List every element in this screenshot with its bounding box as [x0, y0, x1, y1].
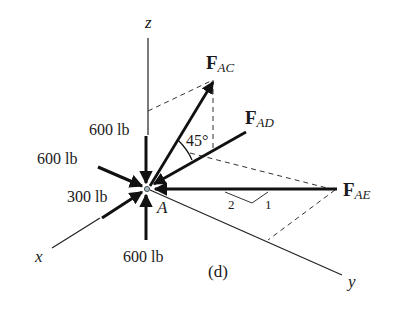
point-a	[144, 186, 149, 191]
angle-label: 45°	[186, 132, 208, 149]
x-axis-label: x	[34, 247, 43, 266]
slope-rise-label: 1	[265, 197, 272, 212]
construction-lines	[148, 80, 335, 240]
top-load-label: 600 lb	[89, 121, 129, 138]
fad-label: FAD	[245, 107, 275, 130]
bottom-load-label: 600 lb	[123, 248, 163, 265]
fac-label: FAC	[206, 52, 235, 75]
z-axis-label: z	[144, 13, 152, 32]
free-body-diagram: z x y FAC FAD FAE 45° 2 1 600 lb 600 lb …	[0, 0, 393, 313]
left-load-label: 300 lb	[67, 188, 107, 205]
figure-caption: (d)	[208, 262, 228, 281]
fae-label: FAE	[343, 179, 371, 202]
upper-left-load-label: 600 lb	[37, 150, 77, 167]
upper-left-load-arrow	[98, 167, 142, 186]
left-load-arrow	[102, 192, 142, 218]
x-axis	[52, 218, 100, 248]
y-axis	[150, 190, 342, 275]
y-axis-label: y	[346, 272, 356, 291]
point-a-label: A	[156, 198, 168, 217]
slope-run-label: 2	[228, 197, 235, 212]
